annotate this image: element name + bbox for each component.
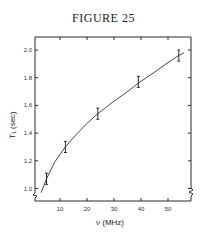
y-axis-label: T₁ (sec) <box>8 111 17 139</box>
x-tick-label: 20 <box>84 206 91 212</box>
y-tick-label: 1.4 <box>24 130 33 136</box>
x-tick-label: 40 <box>138 206 145 212</box>
x-tick-label: 10 <box>57 206 64 212</box>
right-axis-break <box>189 188 193 201</box>
y-axis-break <box>33 193 37 201</box>
y-tick-label: 1.8 <box>24 75 33 81</box>
fit-curve <box>41 53 184 193</box>
x-axis-label: ν (MHz) <box>96 218 124 227</box>
x-tick-label: 50 <box>165 206 172 212</box>
y-tick-label: 1.6 <box>24 102 33 108</box>
y-tick-label: 1.2 <box>24 158 33 164</box>
chart: 1.01.21.41.61.82.01020304050ν (MHz)T₁ (s… <box>0 0 207 239</box>
y-tick-label: 2.0 <box>24 47 33 53</box>
x-tick-label: 30 <box>111 206 118 212</box>
y-tick-label: 1.0 <box>24 186 33 192</box>
